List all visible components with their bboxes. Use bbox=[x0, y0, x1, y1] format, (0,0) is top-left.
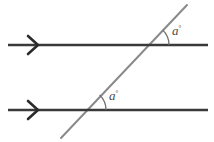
geometry-canvas: a° a° bbox=[0, 0, 214, 142]
geometry-diagram: a° a° bbox=[0, 0, 214, 142]
upper-angle-arc bbox=[163, 30, 169, 45]
lower-angle-label: a° bbox=[109, 88, 119, 103]
upper-angle-degree-symbol: ° bbox=[179, 24, 182, 32]
upper-angle-label: a° bbox=[172, 23, 182, 38]
lower-angle-degree-symbol: ° bbox=[116, 89, 119, 97]
transversal-line bbox=[61, 5, 187, 138]
